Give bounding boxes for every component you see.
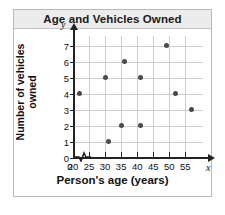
y-axis-line xyxy=(73,28,75,158)
x-tick-label: 25 xyxy=(84,161,95,172)
gridline-horizontal xyxy=(73,94,203,95)
y-tick-label: 0 xyxy=(64,153,69,164)
chart-title-bar: Age and Vehicles Owned xyxy=(14,10,211,29)
y-axis-title: Number of vehicles owned xyxy=(6,32,46,152)
x-tick-label: 50 xyxy=(164,161,175,172)
x-tick-label: 40 xyxy=(132,161,143,172)
y-axis-title-label: Number of vehicles owned xyxy=(14,44,38,141)
x-axis-line xyxy=(73,157,210,159)
gridline-vertical xyxy=(121,36,122,158)
scatter-point xyxy=(103,75,108,80)
chart-card: Age and Vehicles Owned Number of vehicle… xyxy=(13,9,212,197)
gridline-horizontal xyxy=(73,110,203,111)
x-tick-label: 45 xyxy=(148,161,159,172)
gridline-horizontal xyxy=(73,142,203,143)
scatter-point xyxy=(106,139,111,144)
gridline-horizontal xyxy=(73,46,203,47)
scatter-point xyxy=(173,91,178,96)
scatter-point xyxy=(122,59,127,64)
x-tick-label: 35 xyxy=(116,161,127,172)
gridline-vertical xyxy=(169,36,170,158)
gridline-vertical xyxy=(185,36,186,158)
scatter-point xyxy=(77,91,82,96)
scatter-point xyxy=(189,107,194,112)
y-tick-label: 2 xyxy=(64,120,69,131)
scatter-point xyxy=(138,75,143,80)
y-tick-label: 5 xyxy=(64,72,69,83)
y-tick-label: 6 xyxy=(64,56,69,67)
y-tick-label: 7 xyxy=(64,40,69,51)
y-tick-label: 3 xyxy=(64,104,69,115)
scatter-point xyxy=(119,123,124,128)
x-tick-label: 30 xyxy=(100,161,111,172)
gridline-vertical xyxy=(89,36,90,158)
y-tick-label: 4 xyxy=(64,88,69,99)
gridline-vertical xyxy=(137,36,138,158)
y-axis-arrow-icon xyxy=(70,23,78,30)
axis-break-icon xyxy=(75,150,91,162)
scatter-point xyxy=(164,43,169,48)
gridline-vertical xyxy=(153,36,154,158)
y-axis-variable-label: y xyxy=(61,19,65,30)
gridline-horizontal xyxy=(73,62,203,63)
scatter-point xyxy=(138,123,143,128)
y-tick-label: 1 xyxy=(64,136,69,147)
x-axis-title: Person's age (years) xyxy=(14,174,211,186)
plot-area: 2025303540455055001234567 y x xyxy=(73,36,195,158)
x-axis-variable-label: x xyxy=(206,162,210,173)
x-tick-label: 55 xyxy=(180,161,191,172)
x-axis-arrow-icon xyxy=(208,154,215,162)
